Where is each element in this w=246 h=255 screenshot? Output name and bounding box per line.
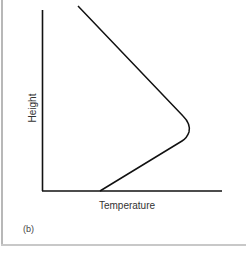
y-axis-label: Height: [27, 94, 38, 123]
chart-plot: [0, 0, 246, 255]
temperature-profile-line: [78, 6, 189, 191]
panel-label: (b): [23, 224, 34, 234]
x-axis-label: Temperature: [99, 200, 155, 211]
